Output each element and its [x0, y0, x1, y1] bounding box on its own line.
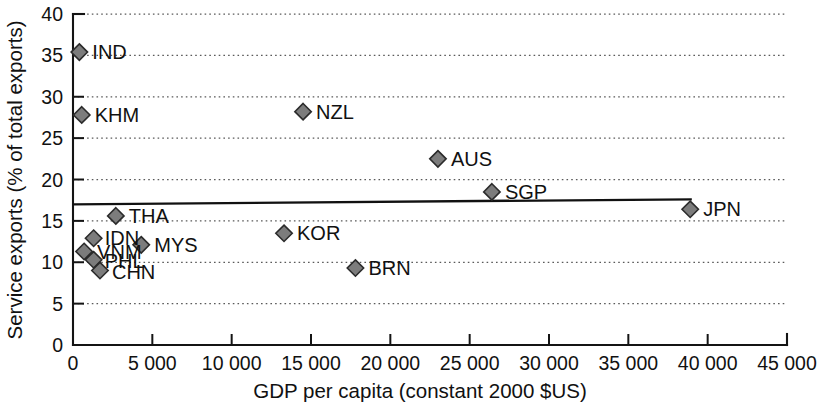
y-tick-label: 15 — [41, 210, 63, 232]
y-tick-label: 25 — [41, 127, 63, 149]
y-tick-label: 0 — [52, 334, 63, 356]
data-point-label: THA — [129, 205, 170, 227]
data-points-group: INDKHMNZLAUSSGPJPNTHAKORIDNMYSVNMPHLCHNB… — [71, 41, 741, 282]
x-tick-label: 0 — [68, 352, 79, 374]
trend-line — [73, 199, 692, 204]
x-tick-label: 15 000 — [281, 352, 341, 374]
data-point-label: KOR — [297, 222, 340, 244]
x-tick-label: 35 000 — [599, 352, 659, 374]
x-tick-label: 25 000 — [440, 352, 500, 374]
data-point-marker — [682, 201, 698, 217]
data-point-marker — [74, 107, 90, 123]
data-point-label: NZL — [316, 101, 354, 123]
data-point-label: SGP — [505, 181, 547, 203]
x-tick-label: 30 000 — [519, 352, 579, 374]
trendline-group — [73, 199, 692, 204]
data-point-marker — [295, 103, 311, 119]
x-tick-label: 5 000 — [128, 352, 177, 374]
y-tick-label: 35 — [41, 44, 63, 66]
x-axis-title: GDP per capita (constant 2000 $US) — [253, 379, 587, 402]
x-tick-group: 05 00010 00015 00020 00025 00030 00035 0… — [68, 334, 817, 374]
data-point-marker — [430, 151, 446, 167]
x-tick-label: 10 000 — [202, 352, 262, 374]
scatter-chart: 0510152025303540 05 00010 00015 00020 00… — [0, 0, 822, 406]
y-tick-label: 5 — [52, 293, 63, 315]
x-tick-label: 40 000 — [678, 352, 738, 374]
y-tick-label: 20 — [41, 169, 63, 191]
y-tick-label: 10 — [41, 251, 63, 273]
y-axis-title: Service exports (% of total exports) — [3, 20, 26, 339]
data-point-label: BRN — [368, 257, 410, 279]
data-point-marker — [108, 208, 124, 224]
x-tick-label: 20 000 — [361, 352, 421, 374]
data-point-label: KHM — [95, 104, 139, 126]
y-tick-label: 40 — [41, 3, 63, 25]
y-tick-label: 30 — [41, 86, 63, 108]
data-point-marker — [276, 225, 292, 241]
x-tick-label: 45 000 — [757, 352, 817, 374]
data-point-label: IND — [92, 41, 126, 63]
chart-canvas: 0510152025303540 05 00010 00015 00020 00… — [0, 0, 822, 406]
data-point-marker — [484, 184, 500, 200]
data-point-label: AUS — [451, 148, 492, 170]
data-point-label: JPN — [703, 198, 741, 220]
data-point-label: MYS — [154, 234, 197, 256]
data-point-label: CHN — [112, 261, 155, 283]
